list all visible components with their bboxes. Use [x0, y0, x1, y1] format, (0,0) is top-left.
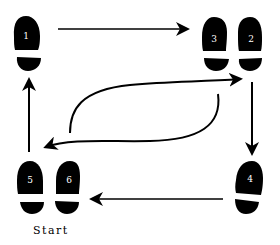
step-number: 5 [27, 175, 33, 185]
step-number: 3 [211, 34, 217, 44]
dance-diagram: 1 3 2 4 5 6 [0, 0, 280, 245]
footprint-1: 1 [14, 16, 41, 71]
footprint-6: 6 [55, 161, 80, 214]
start-label: Start [33, 224, 69, 237]
step-number: 4 [247, 174, 253, 184]
step-number: 6 [66, 175, 72, 185]
footprint-4: 4 [235, 161, 263, 214]
footprint-3: 3 [202, 17, 229, 71]
curved-arrow-to-3 [70, 79, 240, 133]
step-number: 1 [23, 31, 29, 41]
step-number: 2 [248, 34, 254, 44]
footprint-5: 5 [17, 161, 44, 214]
footprint-2: 2 [238, 17, 262, 71]
